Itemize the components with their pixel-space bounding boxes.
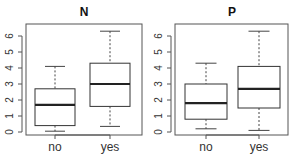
y-tick-label: 4	[4, 65, 15, 71]
y-tick-label: 0	[4, 129, 15, 135]
iqr-box	[35, 89, 75, 126]
y-tick-label: 3	[153, 81, 164, 87]
y-tick-label: 6	[4, 33, 15, 39]
x-tick-label-no: no	[199, 140, 213, 154]
y-tick-label: 1	[4, 113, 15, 119]
y-tick-label: 1	[153, 113, 164, 119]
y-tick-label: 6	[153, 33, 164, 39]
panel-title: N	[80, 5, 89, 19]
box-yes	[90, 31, 130, 126]
iqr-box	[238, 66, 280, 108]
panel-n: N0123456noyes	[4, 5, 142, 154]
x-tick-label-yes: yes	[250, 140, 269, 154]
box-yes	[238, 31, 280, 130]
y-tick-label: 5	[153, 49, 164, 55]
y-tick-label: 2	[153, 97, 164, 103]
y-tick-label: 4	[153, 65, 164, 71]
y-tick-label: 5	[4, 49, 15, 55]
y-tick-label: 3	[4, 81, 15, 87]
x-tick-label-no: no	[48, 140, 62, 154]
boxplot-figure: N0123456noyesP0123456noyes	[0, 0, 298, 164]
y-tick-label: 2	[4, 97, 15, 103]
box-no	[35, 66, 75, 131]
y-tick-label: 0	[153, 129, 164, 135]
iqr-box	[185, 84, 227, 119]
panel-p: P0123456noyes	[153, 5, 288, 154]
panel-title: P	[228, 5, 236, 19]
box-no	[185, 63, 227, 129]
x-tick-label-yes: yes	[101, 140, 120, 154]
boxplot-canvas: N0123456noyesP0123456noyes	[0, 0, 298, 164]
